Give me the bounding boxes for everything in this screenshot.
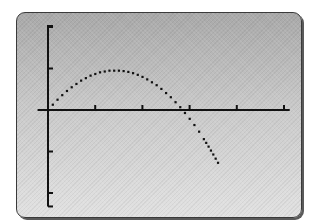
curve-dot bbox=[203, 138, 205, 140]
curve-dot bbox=[198, 131, 200, 133]
graph-plot bbox=[0, 0, 310, 223]
curve-dot bbox=[108, 70, 110, 72]
curve-dot bbox=[215, 158, 217, 160]
curve-dot bbox=[174, 101, 176, 103]
curve-dot bbox=[104, 70, 106, 72]
curve-dot bbox=[127, 71, 129, 73]
curve-dot bbox=[113, 70, 115, 72]
curve-dot bbox=[184, 112, 186, 114]
curve-dot bbox=[99, 71, 101, 73]
curve-dot bbox=[89, 75, 91, 77]
curve-dot bbox=[85, 77, 87, 79]
curve-dot bbox=[118, 70, 120, 72]
curve-dot bbox=[123, 70, 125, 72]
curve-dot bbox=[61, 94, 63, 96]
curve-dot bbox=[56, 99, 58, 101]
axis-ticks bbox=[48, 26, 284, 206]
axes bbox=[38, 25, 290, 206]
curve-dot bbox=[165, 92, 167, 94]
curve-dot bbox=[212, 153, 214, 155]
curve-dot bbox=[210, 149, 212, 151]
curve-dot bbox=[193, 124, 195, 126]
curve-dot bbox=[207, 146, 209, 148]
curve-dot bbox=[132, 72, 134, 74]
curve-dot bbox=[189, 118, 191, 120]
curve-dot bbox=[71, 86, 73, 88]
curve-dot bbox=[137, 74, 139, 76]
curve-dot bbox=[170, 96, 172, 98]
curve-dot bbox=[52, 104, 54, 106]
curve-dot bbox=[217, 162, 219, 164]
curve-dot bbox=[160, 88, 162, 90]
curve-dot bbox=[80, 80, 82, 82]
curve-dot bbox=[75, 83, 77, 85]
curve-dot bbox=[146, 78, 148, 80]
curve-dot bbox=[156, 84, 158, 86]
curve-dot bbox=[66, 90, 68, 92]
curve-dot bbox=[179, 106, 181, 108]
curve-dot bbox=[151, 81, 153, 83]
curve-dot bbox=[47, 109, 49, 111]
parabola-curve bbox=[47, 70, 219, 164]
curve-dot bbox=[141, 76, 143, 78]
curve-dot bbox=[205, 142, 207, 144]
curve-dot bbox=[94, 73, 96, 75]
